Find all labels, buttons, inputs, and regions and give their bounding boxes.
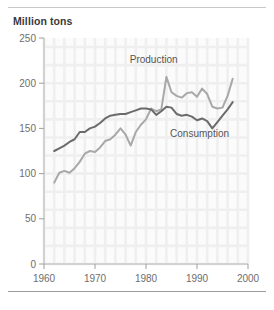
y-tick-label: 0 xyxy=(30,259,36,270)
y-tick-label: 50 xyxy=(25,213,37,224)
x-tick-label: 1960 xyxy=(33,273,56,284)
y-tick-label: 200 xyxy=(19,78,36,89)
x-tick-label: 2000 xyxy=(237,273,260,284)
x-tick-label: 1970 xyxy=(84,273,107,284)
y-tick-label: 100 xyxy=(19,168,36,179)
y-tick-label: 150 xyxy=(19,123,36,134)
chart-figure: Million tons 050100150200250196019701980… xyxy=(0,0,274,310)
grid-lines xyxy=(44,38,248,264)
y-tick-label: 250 xyxy=(19,33,36,44)
series-label-consumption: Consumption xyxy=(170,128,229,139)
bottom-divider-rule xyxy=(8,291,266,292)
x-tick-label: 1980 xyxy=(135,273,158,284)
x-tick-label: 1990 xyxy=(186,273,209,284)
chart-plot-area: 05010015020025019601970198019902000Produ… xyxy=(0,0,274,310)
series-label-production: Production xyxy=(130,54,178,65)
